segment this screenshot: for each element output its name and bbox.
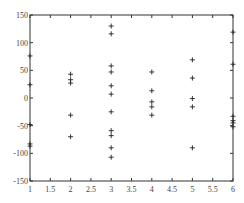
- x-tick-label: 2.5: [86, 185, 96, 194]
- plus-marker: [149, 104, 154, 109]
- plus-marker: [109, 145, 114, 150]
- plus-marker: [109, 128, 114, 133]
- plus-marker: [231, 30, 236, 35]
- y-tick-label: -100: [13, 149, 28, 158]
- plus-marker: [190, 76, 195, 81]
- plus-marker: [28, 82, 33, 87]
- y-tick-label: -150: [13, 177, 28, 186]
- plus-marker: [109, 155, 114, 160]
- plus-marker: [149, 88, 154, 93]
- y-tick-label: 150: [16, 11, 28, 20]
- axes: [30, 15, 233, 181]
- plus-marker: [109, 92, 114, 97]
- plus-marker: [190, 96, 195, 101]
- data-markers: [28, 24, 236, 160]
- x-tick-label: 2: [69, 185, 73, 194]
- x-tick-label: 4.5: [167, 185, 177, 194]
- plus-marker: [109, 69, 114, 74]
- plus-marker: [28, 53, 33, 58]
- plus-marker: [149, 69, 154, 74]
- ticks: [30, 15, 233, 181]
- plus-marker: [109, 83, 114, 88]
- plus-marker: [190, 145, 195, 150]
- plus-marker: [149, 99, 154, 104]
- plus-marker: [28, 144, 33, 149]
- y-tick-label: 0: [24, 94, 28, 103]
- x-tick-label: 1.5: [45, 185, 55, 194]
- plus-marker: [190, 104, 195, 109]
- plus-marker: [109, 133, 114, 138]
- plus-marker: [68, 134, 73, 139]
- x-tick-label: 5: [190, 185, 194, 194]
- plot-frame: [30, 15, 233, 181]
- plus-marker: [231, 62, 236, 67]
- plus-marker: [231, 114, 236, 119]
- x-tick-label: 3.5: [127, 185, 137, 194]
- y-tick-labels: -150-100-50050100150: [13, 11, 28, 186]
- plus-marker: [109, 24, 114, 29]
- x-tick-labels: 11.522.533.544.555.56: [28, 185, 235, 194]
- scatter-plot: 11.522.533.544.555.56 -150-100-500501001…: [0, 0, 244, 203]
- x-tick-label: 4: [150, 185, 154, 194]
- x-tick-label: 3: [109, 185, 113, 194]
- plus-marker: [190, 57, 195, 62]
- plus-marker: [109, 63, 114, 68]
- plus-marker: [109, 109, 114, 114]
- x-tick-label: 5.5: [208, 185, 218, 194]
- y-tick-label: -50: [17, 122, 28, 131]
- y-tick-label: 50: [20, 66, 28, 75]
- x-tick-label: 6: [231, 185, 235, 194]
- x-tick-label: 1: [28, 185, 32, 194]
- plus-marker: [68, 113, 73, 118]
- plus-marker: [231, 124, 236, 129]
- plus-marker: [68, 72, 73, 77]
- plus-marker: [28, 122, 33, 127]
- plus-marker: [149, 113, 154, 118]
- plus-marker: [68, 81, 73, 86]
- plus-marker: [109, 31, 114, 36]
- y-tick-label: 100: [16, 39, 28, 48]
